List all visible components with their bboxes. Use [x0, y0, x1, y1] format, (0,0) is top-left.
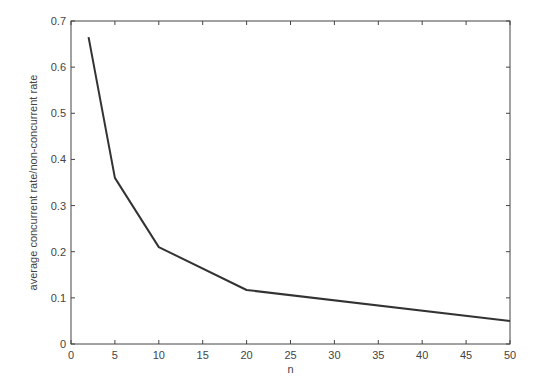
- x-tick-label: 30: [328, 349, 340, 361]
- data-line: [89, 37, 510, 321]
- y-tick-label: 0.3: [51, 200, 66, 212]
- x-axis-label: n: [287, 363, 293, 375]
- x-tick-label: 15: [197, 349, 209, 361]
- y-tick-label: 0.1: [51, 292, 66, 304]
- x-tick-label: 35: [372, 349, 384, 361]
- x-tick-label: 50: [504, 349, 516, 361]
- y-tick-label: 0: [60, 338, 66, 350]
- x-tick-label: 25: [284, 349, 296, 361]
- x-tick-label: 0: [68, 349, 74, 361]
- y-tick-label: 0.5: [51, 107, 66, 119]
- x-tick-label: 45: [460, 349, 472, 361]
- x-axis-ticks: 05101520253035404550: [68, 21, 516, 361]
- y-tick-label: 0.6: [51, 61, 66, 73]
- y-tick-label: 0.7: [51, 15, 66, 27]
- x-tick-label: 40: [416, 349, 428, 361]
- x-tick-label: 10: [153, 349, 165, 361]
- y-axis-ticks: 00.10.20.30.40.50.60.7: [51, 15, 510, 350]
- y-tick-label: 0.2: [51, 246, 66, 258]
- y-axis-label: average concurrent rate/non-concurrent r…: [27, 75, 39, 291]
- x-tick-label: 20: [240, 349, 252, 361]
- line-chart: 05101520253035404550 00.10.20.30.40.50.6…: [0, 0, 540, 389]
- y-tick-label: 0.4: [51, 153, 66, 165]
- x-tick-label: 5: [112, 349, 118, 361]
